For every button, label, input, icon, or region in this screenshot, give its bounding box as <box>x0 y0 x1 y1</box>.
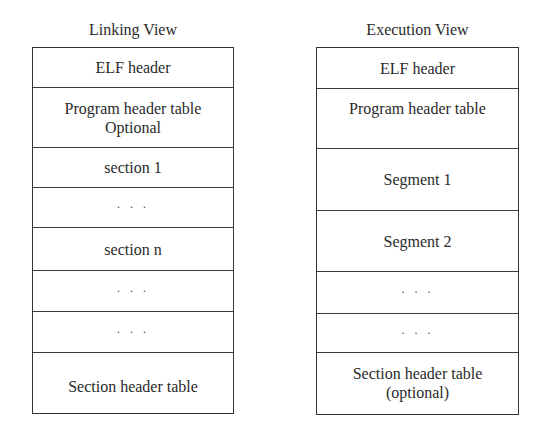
linking-program-header-table: Program header table Optional <box>33 88 233 148</box>
ellipsis: · · · <box>401 324 434 343</box>
cell-label: Program header table <box>349 99 486 118</box>
linking-ellipsis-2: · · · <box>33 271 233 312</box>
linking-section-n: section n <box>33 228 233 271</box>
execution-segment-1: Segment 1 <box>317 149 518 211</box>
ellipsis: · · · <box>117 198 150 217</box>
linking-ellipsis-3: · · · <box>33 312 233 353</box>
cell-label: Segment 2 <box>384 232 452 251</box>
linking-section-1: section 1 <box>33 148 233 188</box>
cell-sublabel: Optional <box>105 118 161 137</box>
linking-section-header-table: Section header table <box>33 353 233 412</box>
execution-view-title: Execution View <box>316 20 519 40</box>
linking-ellipsis-1: · · · <box>33 188 233 228</box>
linking-view-box: ELF header Program header table Optional… <box>32 47 234 414</box>
cell-label: section n <box>104 240 161 259</box>
cell-label: section 1 <box>104 158 161 177</box>
execution-elf-header: ELF header <box>317 48 518 89</box>
execution-view-box: ELF header Program header table Segment … <box>316 47 519 415</box>
ellipsis: · · · <box>401 283 434 302</box>
cell-sublabel: (optional) <box>386 383 449 402</box>
cell-label: ELF header <box>95 58 170 77</box>
ellipsis: · · · <box>117 323 150 342</box>
cell-label: ELF header <box>380 59 455 78</box>
cell-label: Section header table <box>68 377 198 396</box>
execution-section-header-table: Section header table (optional) <box>317 353 518 413</box>
execution-ellipsis-1: · · · <box>317 272 518 314</box>
linking-elf-header: ELF header <box>33 48 233 88</box>
execution-ellipsis-2: · · · <box>317 314 518 353</box>
cell-label: Segment 1 <box>384 170 452 189</box>
execution-program-header-table: Program header table <box>317 89 518 149</box>
ellipsis: · · · <box>117 282 150 301</box>
execution-segment-2: Segment 2 <box>317 211 518 272</box>
cell-label: Section header table <box>353 364 483 383</box>
cell-label: Program header table <box>65 99 202 118</box>
linking-view-title: Linking View <box>32 20 234 40</box>
